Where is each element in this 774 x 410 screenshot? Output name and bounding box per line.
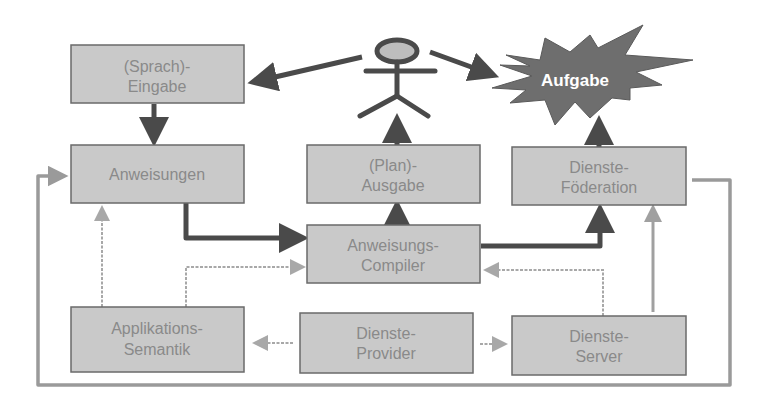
architecture-diagram: (Sprach)- Eingabe Anweisungen (Plan)- Au… [0,0,774,410]
box-dienste-foederation: Dienste- Föderation [512,147,686,205]
box-label-line1: Dienste- [356,325,416,342]
aufgabe-label: Aufgabe [541,71,609,90]
edge-actor-to-aufgabe [430,52,485,72]
box-label-line1: Applikations- [111,320,203,337]
box-label-line2: Föderation [561,179,638,196]
edge-semantik-to-compiler [186,267,300,307]
box-plan-ausgabe: (Plan)- Ausgabe [307,145,480,203]
edge-actor-to-eingabe [262,57,362,80]
box-label-line2: Ausgabe [361,177,424,194]
box-label-line2: Semantik [124,341,192,358]
box-label-line2: Eingabe [128,78,187,95]
box-anweisungen: Anweisungen [71,145,244,203]
box-label-line1: (Sprach)- [124,58,191,75]
box-label-line1: Dienste- [569,328,629,345]
box-sprach-eingabe: (Sprach)- Eingabe [71,45,244,103]
box-label-line2: Server [575,348,623,365]
edge-anweisungen-to-compiler [186,203,294,238]
user-stick-figure-icon [360,40,435,116]
box-label-line1: Anweisungs- [347,237,439,254]
box-label-line2: Provider [356,345,416,362]
box-label-line1: Anweisungen [109,166,205,183]
box-dienste-provider: Dienste- Provider [300,313,473,373]
box-label-line1: Dienste- [569,159,629,176]
edge-server-to-compiler [489,270,603,316]
edge-compiler-to-foederation [481,218,600,246]
box-label-line2: Compiler [361,257,426,274]
box-label-line1: (Plan)- [369,157,417,174]
box-anweisungs-compiler: Anweisungs- Compiler [307,225,480,283]
box-applikations-semantik: Applikations- Semantik [71,307,244,372]
box-dienste-server: Dienste- Server [512,316,686,375]
aufgabe-starburst: Aufgabe [492,25,693,125]
